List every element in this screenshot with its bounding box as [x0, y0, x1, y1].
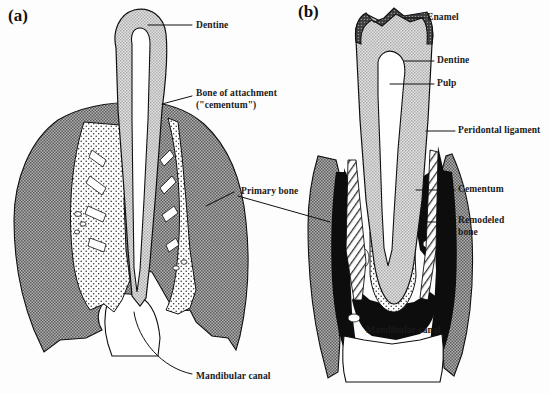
- label-remodeled-bone-b-line2: bone: [458, 227, 504, 239]
- figure-root: (a) (b) Dentine Bone of attachment ("cem…: [0, 0, 550, 394]
- label-dentine-a: Dentine: [196, 20, 228, 32]
- panel-a-artwork: [14, 9, 248, 356]
- label-bone-of-attachment-a-line2: ("cementum"): [196, 100, 277, 112]
- label-peridontal-ligament-b: Peridontal ligament: [458, 125, 540, 137]
- panel-label-b: (b): [298, 2, 319, 22]
- mandibular-canal-shape-b: [343, 334, 444, 382]
- label-enamel-b: Enamel: [427, 12, 459, 24]
- leader-bone-attachment-a: [162, 96, 192, 104]
- label-primary-bone: Primary bone: [241, 186, 298, 198]
- label-remodeled-bone-b: Remodeled bone: [458, 215, 504, 238]
- label-bone-of-attachment-a-line1: Bone of attachment: [196, 88, 277, 100]
- panel-label-a: (a): [8, 6, 28, 26]
- label-remodeled-bone-b-line1: Remodeled: [458, 215, 504, 227]
- marrow-void-b3: [348, 314, 360, 322]
- label-dentine-b: Dentine: [437, 55, 469, 67]
- label-pulp-b: Pulp: [437, 78, 456, 90]
- label-mandibular-canal-a: Mandibular canal: [196, 371, 271, 383]
- label-bone-of-attachment-a: Bone of attachment ("cementum"): [196, 88, 277, 111]
- label-mandibular-canal-b: Mandibular canal: [366, 325, 441, 337]
- label-cementum-b: Cementum: [458, 184, 504, 196]
